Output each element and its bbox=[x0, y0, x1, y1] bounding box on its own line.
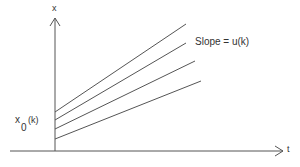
trajectory-lines bbox=[55, 24, 201, 139]
intercept-label-arg: (k) bbox=[28, 115, 39, 125]
trajectory-line-1 bbox=[55, 24, 186, 112]
diagram-canvas bbox=[0, 0, 300, 167]
trajectory-line-3 bbox=[55, 61, 195, 129]
x-axis-label: x bbox=[52, 4, 57, 13]
t-axis-label: t bbox=[287, 145, 290, 154]
intercept-label-sub: 0 bbox=[21, 122, 27, 133]
trajectory-line-2 bbox=[55, 43, 186, 120]
trajectory-line-4 bbox=[55, 81, 201, 139]
slope-label: Slope = u(k) bbox=[195, 37, 249, 47]
intercept-label-main: x bbox=[15, 114, 20, 125]
